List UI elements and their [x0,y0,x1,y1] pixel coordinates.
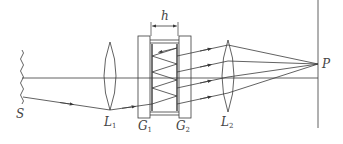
label-source: S [16,107,24,121]
multiple-reflections [152,48,177,104]
lens-l1 [104,42,116,110]
converging-rays [228,45,318,93]
label-plate1: G1 [138,119,152,134]
label-lens1: L1 [103,115,116,130]
label-focus-point: P [321,57,331,71]
extended-source [21,50,24,104]
label-gap: h [161,9,169,23]
label-lens2: L2 [220,115,233,130]
label-plate2: G2 [176,119,190,134]
transmitted-rays [177,45,228,104]
fabry-perot-diagram: S L1 G1 G2 L2 P h [0,0,343,144]
plate-g2 [179,36,191,118]
